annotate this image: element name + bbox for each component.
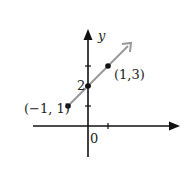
- point-label-neg1-1: (−1, 1): [24, 101, 70, 116]
- point-label-1-3: (1,3): [114, 67, 145, 82]
- x-axis-arrow-icon: [169, 122, 180, 131]
- y-axis-arrow-icon: [84, 29, 93, 40]
- y-axis-label: y: [97, 28, 106, 43]
- origin-label: 0: [90, 131, 98, 146]
- coordinate-plane: y 0 (−1, 1) (1,3) 2: [0, 0, 185, 185]
- intercept-label: 2: [77, 78, 85, 93]
- point-1-3: [105, 63, 111, 69]
- point-0-2: [85, 83, 91, 89]
